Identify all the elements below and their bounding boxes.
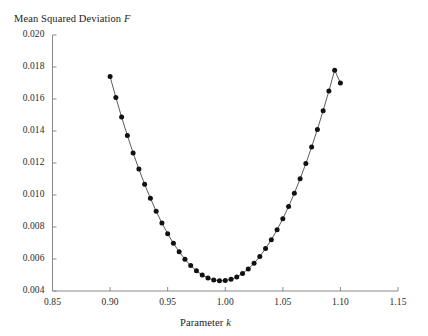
data-point (309, 145, 314, 150)
data-point (108, 74, 113, 79)
data-point (252, 261, 257, 266)
data-point (188, 263, 193, 268)
data-point (154, 209, 159, 214)
data-point (332, 68, 337, 73)
data-point (211, 277, 216, 282)
data-point (148, 196, 153, 201)
data-point (321, 108, 326, 113)
data-point (165, 231, 170, 236)
data-point (292, 191, 297, 196)
data-point (298, 176, 303, 181)
plot-canvas (0, 0, 428, 336)
chart-figure: Mean Squared Deviation F Parameter k 0.0… (0, 0, 428, 336)
data-point (234, 274, 239, 279)
data-point (286, 204, 291, 209)
data-point (280, 216, 285, 221)
data-point (240, 271, 245, 276)
data-point (113, 95, 118, 100)
data-point (326, 89, 331, 94)
data-point (182, 257, 187, 262)
data-point (223, 278, 228, 283)
data-point (200, 273, 205, 278)
data-point (315, 127, 320, 132)
data-line (110, 70, 340, 281)
data-point (269, 237, 274, 242)
data-point (246, 266, 251, 271)
data-point (119, 115, 124, 120)
data-point (263, 246, 268, 251)
data-point (205, 276, 210, 281)
data-point (125, 133, 130, 138)
data-point (131, 150, 136, 155)
data-point (257, 254, 262, 259)
data-point (338, 81, 343, 86)
data-point (194, 268, 199, 273)
data-point (177, 249, 182, 254)
data-point (171, 241, 176, 246)
data-point (136, 167, 141, 172)
data-point (217, 278, 222, 283)
data-point (303, 161, 308, 166)
data-point (159, 221, 164, 226)
data-point (275, 227, 280, 232)
data-point (142, 182, 147, 187)
data-point (229, 277, 234, 282)
